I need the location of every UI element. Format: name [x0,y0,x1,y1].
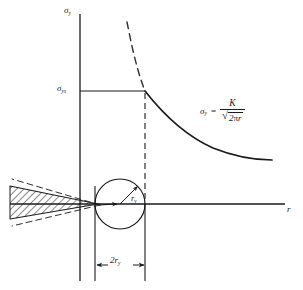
equation-left-side: σy [200,106,207,116]
equation-sigma-subscript: y [204,110,206,116]
crack-tip-stress-diagram [0,0,303,290]
elastic-singularity-dashed-curve [127,22,145,91]
x-axis-label: r [287,205,291,214]
plastic-zone-diameter-label: 2ry [110,256,121,265]
plastic-zone-diameter-subscript: y [118,260,120,266]
equation-equals-sign: = [210,106,217,116]
equation-numerator: K [225,98,239,109]
equation-denominator: √2πr [220,110,245,123]
equation-radicand-r: r [238,113,242,123]
yield-strength-subscript: ys [61,88,66,94]
equation-radicand: 2πr [228,112,243,123]
equation-fraction: K √2πr [220,98,245,123]
y-axis-label-subscript: y [68,10,70,16]
plastic-zone-radius-label: ry [131,194,137,203]
plastic-zone-diameter-symbol: 2r [110,255,118,265]
stress-equation: σy = K √2πr [200,98,245,123]
y-axis-label: σy [64,6,71,15]
yield-strength-label: σys [57,84,66,93]
figure-container: σy σys r ry 2ry σy = K √2πr [0,0,303,290]
plastic-zone-radius-subscript: y [134,198,136,204]
